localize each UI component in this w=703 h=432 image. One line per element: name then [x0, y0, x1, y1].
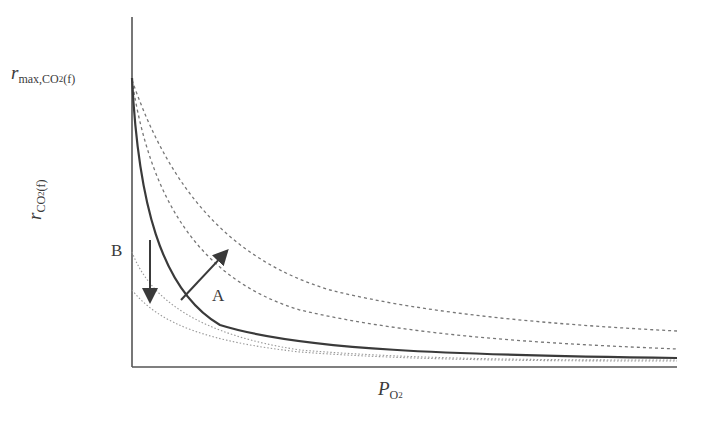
y-max-sub-end: (f)	[63, 72, 75, 86]
x-label-sub: O	[390, 388, 399, 402]
solid-curve	[132, 78, 677, 358]
x-label-sub2: 2	[398, 390, 403, 400]
y-max-label: rmax,CO2(f)	[11, 62, 75, 87]
dashed-curve-middle	[132, 80, 677, 349]
x-axis-label: PO2	[378, 378, 403, 403]
y-label-sub2: 2	[36, 191, 46, 196]
y-axis-label: rCO2(f)	[24, 179, 49, 220]
annotation-a: A	[212, 286, 224, 306]
y-label-sub-end: (f)	[34, 179, 48, 191]
annotation-b: B	[111, 241, 122, 261]
x-label-var: P	[378, 378, 390, 399]
y-label-sub: CO	[34, 196, 48, 213]
y-max-sub: max,CO	[18, 72, 58, 86]
diagram-canvas	[0, 0, 703, 432]
y-label-var: r	[24, 213, 45, 220]
dotted-curve-upper	[132, 252, 677, 360]
